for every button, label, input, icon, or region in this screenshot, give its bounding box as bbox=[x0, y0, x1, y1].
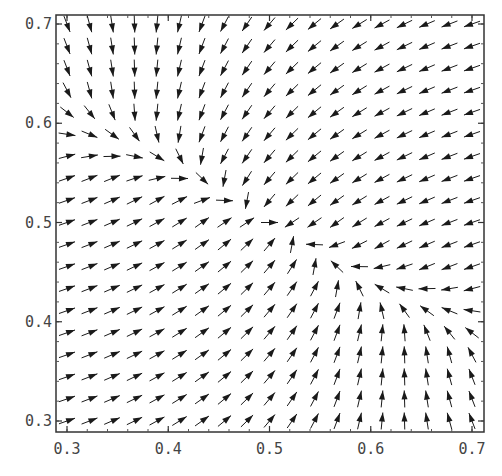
vector-arrow bbox=[286, 40, 298, 52]
vector-arrow bbox=[218, 305, 231, 316]
vector-arrow bbox=[464, 87, 480, 93]
vector-arrow bbox=[375, 152, 390, 160]
vector-arrow bbox=[397, 20, 412, 27]
vector-arrow bbox=[172, 218, 186, 227]
vector-arrow bbox=[442, 21, 458, 27]
vector-arrow bbox=[242, 149, 252, 163]
vector-arrow bbox=[447, 369, 453, 385]
vector-arrow bbox=[264, 326, 275, 339]
vector-arrow bbox=[150, 307, 165, 315]
vector-arrow bbox=[308, 85, 321, 96]
vector-arrow bbox=[375, 174, 390, 182]
vector-arrow bbox=[264, 40, 275, 53]
vector-arrow bbox=[242, 105, 252, 119]
vector-arrow bbox=[86, 82, 92, 98]
vector-arrow bbox=[375, 196, 390, 204]
vector-arrow bbox=[356, 413, 362, 430]
vector-arrow bbox=[59, 286, 75, 292]
vector-arrow bbox=[82, 241, 98, 247]
vector-arrow bbox=[464, 175, 480, 181]
vector-arrow bbox=[150, 373, 165, 381]
vector-arrow bbox=[379, 302, 385, 319]
vector-arrow bbox=[442, 87, 458, 93]
vector-arrow bbox=[286, 84, 298, 96]
vector-arrow bbox=[264, 150, 275, 163]
vector-arrow bbox=[218, 239, 231, 250]
vector-arrow bbox=[400, 304, 410, 318]
vector-arrow bbox=[442, 307, 458, 313]
vector-arrow bbox=[311, 369, 319, 384]
vector-arrow bbox=[311, 303, 319, 318]
vector-arrow bbox=[264, 415, 275, 428]
vector-arrow bbox=[105, 129, 119, 139]
vector-arrow bbox=[241, 415, 253, 427]
vector-arrow bbox=[286, 106, 298, 118]
vector-arrow bbox=[199, 104, 205, 120]
vector-arrow bbox=[424, 325, 430, 341]
vector-arrow bbox=[419, 219, 435, 226]
vector-arrow bbox=[330, 107, 344, 117]
vector-arrow bbox=[397, 131, 412, 138]
vector-arrow bbox=[64, 38, 70, 54]
vector-arrows bbox=[59, 16, 481, 430]
vector-arrow bbox=[64, 60, 70, 76]
vector-arrow bbox=[420, 306, 434, 316]
vector-arrow bbox=[334, 347, 340, 363]
vector-arrow bbox=[397, 175, 412, 182]
vector-arrow bbox=[130, 127, 140, 141]
vector-arrow bbox=[199, 82, 205, 98]
vector-arrow bbox=[177, 126, 183, 143]
vector-arrow bbox=[264, 304, 275, 317]
vector-arrow bbox=[86, 38, 92, 54]
vector-arrow bbox=[444, 326, 455, 339]
vector-arrow bbox=[352, 152, 366, 161]
vector-arrow bbox=[109, 82, 115, 99]
vector-arrow bbox=[218, 327, 231, 338]
vector-arrow bbox=[172, 350, 186, 359]
vector-arrow bbox=[468, 347, 476, 362]
vector-arrow bbox=[264, 194, 275, 207]
vector-arrow bbox=[264, 392, 275, 405]
vector-arrow bbox=[287, 370, 297, 384]
vector-arrow bbox=[330, 85, 344, 95]
vector-arrow bbox=[465, 328, 478, 338]
vector-arrow bbox=[86, 60, 92, 76]
vector-arrow bbox=[330, 151, 344, 161]
vector-arrow bbox=[264, 128, 275, 141]
vector-arrow bbox=[82, 264, 98, 270]
vector-arrow bbox=[287, 392, 297, 406]
vector-arrow bbox=[149, 176, 166, 182]
vector-arrow bbox=[82, 308, 98, 314]
vector-arrow bbox=[242, 127, 252, 141]
vector-arrow bbox=[199, 38, 205, 54]
vector-arrow bbox=[352, 174, 366, 183]
vector-arrow bbox=[104, 351, 120, 358]
vector-arrow bbox=[150, 329, 165, 337]
vector-arrow bbox=[334, 369, 340, 385]
vector-arrow bbox=[375, 42, 390, 50]
vector-arrow bbox=[59, 308, 75, 314]
vector-arrow bbox=[222, 170, 228, 187]
vector-arrow bbox=[375, 64, 390, 72]
vector-arrow bbox=[127, 197, 142, 204]
vector-arrow bbox=[419, 109, 435, 116]
vector-arrow bbox=[172, 306, 186, 315]
vector-arrow bbox=[330, 19, 344, 29]
vector-arrow bbox=[375, 20, 390, 28]
vector-arrow bbox=[172, 240, 186, 249]
vector-arrow bbox=[352, 64, 366, 73]
vector-arrow bbox=[447, 391, 453, 407]
vector-arrow bbox=[464, 131, 480, 137]
vector-arrow bbox=[150, 285, 165, 293]
vector-arrow bbox=[442, 153, 458, 159]
vector-arrow bbox=[308, 173, 321, 184]
vector-arrow bbox=[82, 197, 98, 203]
vector-arrow bbox=[195, 306, 209, 316]
vector-arrow bbox=[241, 327, 253, 339]
vector-arrow bbox=[264, 172, 275, 185]
vector-arrow bbox=[379, 346, 385, 363]
vector-arrow bbox=[177, 38, 183, 55]
vector-arrow bbox=[82, 374, 98, 380]
vector-arrow bbox=[469, 369, 475, 385]
vector-arrow bbox=[216, 197, 233, 203]
